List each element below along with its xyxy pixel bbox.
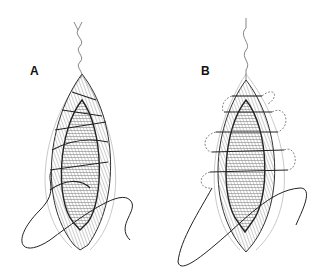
panel-a-wound	[22, 22, 133, 250]
suture-illustration	[0, 0, 328, 279]
panel-b-wound	[178, 18, 307, 266]
